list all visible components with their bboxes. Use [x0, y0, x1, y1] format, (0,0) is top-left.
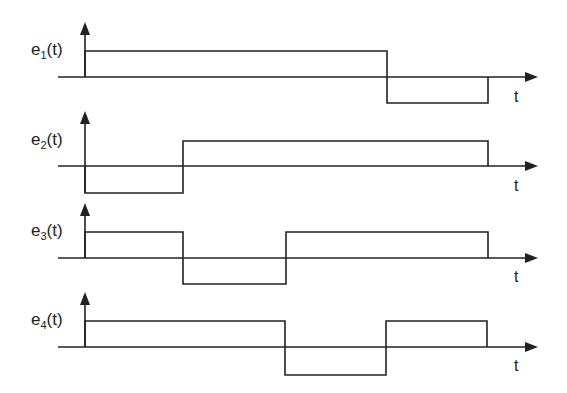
arrow-right-icon: [525, 161, 538, 171]
signal-label-e3: e3(t): [31, 221, 63, 242]
waveform-diagram: [0, 0, 567, 393]
arrow-up-icon: [80, 111, 90, 124]
arrow-up-icon: [80, 22, 90, 35]
time-label-e2: t: [514, 177, 518, 195]
signal-label-e2: e2(t): [31, 130, 63, 151]
arrow-up-icon: [80, 292, 90, 305]
time-label-e3: t: [514, 268, 518, 286]
signal-label-e1: e1(t): [31, 40, 63, 61]
signal-label-e4: e4(t): [31, 310, 63, 331]
time-label-e1: t: [514, 88, 518, 106]
arrow-up-icon: [80, 203, 90, 216]
arrow-right-icon: [525, 342, 538, 352]
arrow-right-icon: [525, 72, 538, 82]
waveform-e4: [85, 321, 487, 375]
time-label-e4: t: [514, 357, 518, 375]
arrow-right-icon: [525, 253, 538, 263]
waveform-e2: [85, 141, 488, 193]
